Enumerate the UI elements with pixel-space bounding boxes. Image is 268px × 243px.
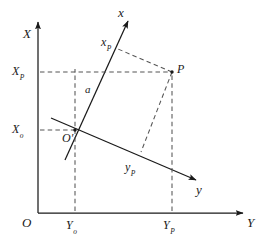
local-y-coordinate-label: yP (125, 161, 135, 176)
local-axes (51, 21, 196, 180)
y-coordinate-of-origin-tick-label: Yo (66, 219, 76, 234)
global-x-axis-label: X (23, 27, 31, 40)
tick-subscript: P (20, 73, 25, 82)
tick-base: X (12, 122, 19, 136)
coord-subscript: P (131, 169, 136, 178)
coord-subscript: P (107, 44, 112, 53)
p-to-local-y-foot-line (141, 72, 172, 152)
tick-base: Y (163, 218, 170, 232)
rotation-angle-label: a (85, 84, 91, 95)
p-to-local-x-foot-line (118, 49, 172, 72)
figure-canvas (0, 0, 268, 243)
tick-subscript: o (20, 131, 24, 140)
construction-lines (40, 49, 172, 211)
coord-base: x (101, 35, 106, 49)
coordinate-transformation-figure: X Y O x y O′ P a XP Xo Yo YP xP yP (0, 0, 268, 243)
tick-subscript: o (73, 227, 77, 236)
x-coordinate-of-p-tick-label: XP (12, 65, 24, 80)
local-y-axis-label: y (196, 183, 202, 196)
local-origin-marker (73, 128, 76, 131)
tick-subscript: P (170, 227, 175, 236)
point-p-label: P (177, 63, 184, 75)
point-p-marker (170, 70, 173, 73)
local-y-axis-line (51, 118, 196, 180)
local-x-axis-label: x (118, 6, 124, 19)
tick-base: Y (66, 218, 73, 232)
global-y-axis-label: Y (247, 216, 254, 229)
local-x-axis-line (65, 21, 128, 160)
coord-base: y (125, 160, 130, 174)
x-coordinate-of-origin-tick-label: Xo (12, 123, 23, 138)
local-x-coordinate-label: xP (101, 36, 111, 51)
local-origin-label: O′ (62, 132, 73, 144)
global-axes (38, 22, 243, 213)
global-origin-label: O (22, 216, 31, 229)
tick-base: X (12, 64, 19, 78)
y-coordinate-of-p-tick-label: YP (163, 219, 174, 234)
